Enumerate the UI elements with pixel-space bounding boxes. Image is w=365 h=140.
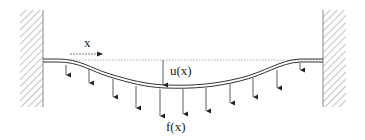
beam-deflection-diagram: x u(x) f(x): [0, 0, 365, 140]
x-label: x: [84, 35, 91, 50]
left-wall: [20, 10, 43, 107]
load-label: f(x): [166, 119, 186, 134]
right-wall: [323, 10, 346, 107]
displacement-label: u(x): [170, 63, 192, 78]
